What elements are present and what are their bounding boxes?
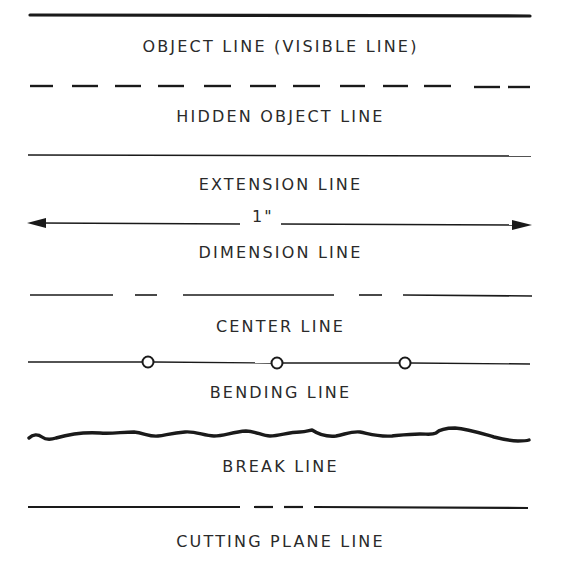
extension-line <box>28 155 531 156</box>
dimension-line-label: DIMENSION LINE <box>0 243 561 263</box>
bend-marker-3 <box>400 358 411 369</box>
dimension-line <box>27 218 532 230</box>
bending-line <box>28 357 530 369</box>
break-line-label: BREAK LINE <box>0 457 561 477</box>
arrowhead-left-icon <box>27 218 46 228</box>
break-line <box>29 428 529 441</box>
bend-marker-2 <box>272 358 283 369</box>
hidden-object-line <box>30 86 530 87</box>
hidden-object-line-label: HIDDEN OBJECT LINE <box>0 107 561 127</box>
arrowhead-right-icon <box>512 220 532 230</box>
cutting-plane-line <box>28 507 528 508</box>
line-types-diagram <box>0 0 561 572</box>
object-line <box>30 15 530 16</box>
center-line <box>30 295 532 296</box>
object-line-label: OBJECT LINE (VISIBLE LINE) <box>0 37 561 57</box>
center-line-label: CENTER LINE <box>0 317 561 337</box>
bending-line-label: BENDING LINE <box>0 383 561 403</box>
bend-marker-1 <box>143 357 154 368</box>
dimension-value: 1" <box>252 207 274 227</box>
cutting-plane-line-label: CUTTING PLANE LINE <box>0 532 561 552</box>
extension-line-label: EXTENSION LINE <box>0 175 561 195</box>
